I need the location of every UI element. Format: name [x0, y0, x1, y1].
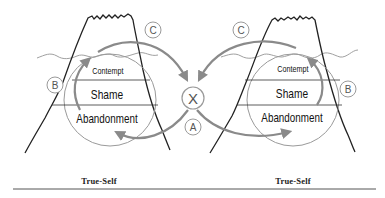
right-caption: True-Self [275, 176, 311, 186]
center-a-marker: A [185, 119, 201, 135]
left-caption: True-Self [81, 176, 117, 186]
left-b-marker: B [47, 77, 63, 93]
left-band-contempt: Contempt [92, 66, 124, 76]
right-band-abandonment: Abandonment [261, 111, 322, 124]
right-b-marker-label: B [345, 84, 352, 95]
left-band-abandonment: Abandonment [76, 112, 137, 125]
left-iceberg-panel: Contempt Shame Abandonment B C True-Self [25, 14, 188, 186]
left-c-marker-label: C [149, 25, 156, 36]
right-b-marker: B [340, 81, 356, 97]
right-band-shame: Shame [276, 87, 308, 100]
center-a-label: A [190, 122, 197, 133]
center-cross-marker: X [182, 87, 204, 109]
right-c-marker-label: C [237, 25, 244, 36]
center-cross-label: X [188, 90, 198, 107]
left-c-marker: C [145, 22, 161, 38]
left-band-shame: Shame [91, 88, 123, 101]
left-b-marker-label: B [52, 80, 59, 91]
right-band-contempt: Contempt [277, 64, 309, 74]
iceberg-diagram: Contempt Shame Abandonment B C True-Self [0, 0, 385, 198]
left-b-arrow [75, 60, 88, 110]
right-b-arrow [310, 60, 322, 105]
right-c-marker: C [233, 22, 249, 38]
right-iceberg-panel: Contempt Shame Abandonment B C True-Self [197, 16, 358, 186]
